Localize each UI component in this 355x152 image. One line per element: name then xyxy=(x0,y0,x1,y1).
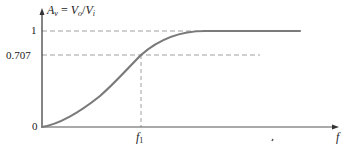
x-axis-label: f xyxy=(336,131,339,143)
y-tick-zero: 0 xyxy=(32,121,38,132)
y-tick-one: 1 xyxy=(31,25,37,36)
y-axis-label-Vi-sub: i xyxy=(93,9,95,18)
y-axis-label-Vo: V xyxy=(71,3,78,17)
y-axis-label-Vi: V xyxy=(85,3,92,17)
stray-mark xyxy=(272,139,273,141)
y-axis-label: Av = Vo/Vi xyxy=(47,4,95,18)
frequency-response-chart xyxy=(0,0,355,152)
response-curve xyxy=(42,31,300,127)
x-tick-f1: f1 xyxy=(136,131,143,145)
y-axis-label-eq: = xyxy=(58,3,71,17)
y-tick-0707: 0.707 xyxy=(6,50,31,61)
x-axis-arrow-icon xyxy=(332,125,339,130)
x-tick-f1-sub: 1 xyxy=(139,136,143,145)
y-axis-arrow-icon xyxy=(40,8,45,15)
